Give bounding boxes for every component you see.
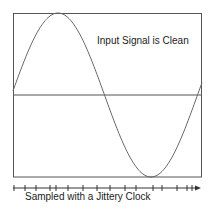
axis-label: Sampled with a Jittery Clock [25,191,151,202]
annotation-label: Input Signal is Clean [97,35,189,46]
arrow-head-icon [195,186,201,191]
jitter-diagram [0,0,213,209]
